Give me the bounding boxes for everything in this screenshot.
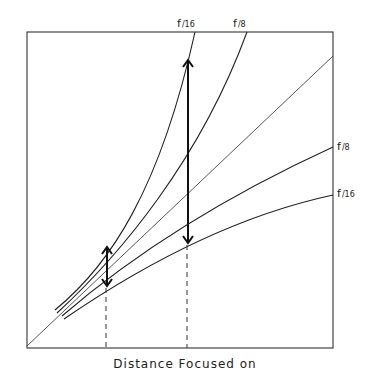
near-limit-label-f16: f/16 — [337, 187, 355, 200]
near-limit-curve-f8 — [62, 147, 333, 316]
aperture-labels: f/16f/8f/8f/16 — [177, 17, 355, 200]
dashed-guides — [106, 245, 187, 348]
far-limit-label-f8: f/8 — [233, 17, 246, 30]
far-limit-curve-f16 — [55, 32, 195, 310]
far-limit-label-f16: f/16 — [177, 17, 195, 30]
plot-frame — [27, 32, 333, 348]
depth-of-field-diagram: f/16f/8f/8f/16 — [0, 0, 370, 376]
near-limit-label-f8: f/8 — [337, 140, 350, 153]
diagonal-reference-line — [27, 56, 333, 346]
large-dof-arrow — [183, 60, 193, 243]
x-axis-label: Distance Focused on — [0, 357, 370, 371]
far-limit-curves — [55, 32, 247, 313]
near-limit-curves — [62, 147, 333, 319]
